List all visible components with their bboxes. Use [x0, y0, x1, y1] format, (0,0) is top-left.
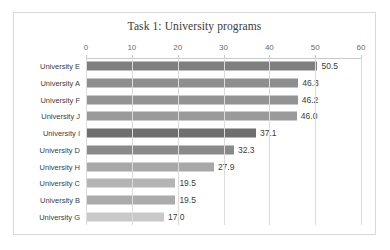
x-axis-tick-label: 60 — [357, 43, 366, 52]
bar[interactable] — [86, 162, 214, 171]
category-label: University J — [41, 112, 80, 121]
x-axis-tick-label: 20 — [173, 43, 182, 52]
axis-tick — [269, 55, 270, 58]
x-axis-tick-label: 0 — [84, 43, 88, 52]
category-label: University H — [40, 162, 80, 171]
bar[interactable] — [86, 195, 175, 204]
bar-value-label: 27.9 — [218, 162, 235, 172]
bar[interactable] — [86, 62, 317, 71]
gridline — [269, 58, 270, 225]
gridline — [315, 58, 316, 225]
gridline — [361, 58, 362, 225]
bar[interactable] — [86, 179, 175, 188]
gridline — [224, 58, 225, 225]
bar-value-label: 46.3 — [302, 78, 319, 88]
category-label: University F — [40, 95, 80, 104]
category-label: University C — [40, 179, 80, 188]
y-axis-category-labels: University EUniversity AUniversity FUniv… — [14, 58, 84, 225]
bar-value-label: 19.5 — [179, 195, 196, 205]
x-axis-tick-label: 50 — [311, 43, 320, 52]
bar-value-label: 50.5 — [321, 61, 338, 71]
category-label: University A — [40, 79, 80, 88]
x-axis-tick-label: 40 — [265, 43, 274, 52]
bar[interactable] — [86, 145, 234, 154]
gridline — [132, 58, 133, 225]
axis-tick — [178, 55, 179, 58]
axis-tick — [361, 55, 362, 58]
plot-area: 50.546.346.246.037.132.327.919.519.517.0 — [86, 58, 361, 225]
bar[interactable] — [86, 79, 298, 88]
axis-tick — [86, 55, 87, 58]
bar-value-label: 19.5 — [179, 178, 196, 188]
category-label: University D — [40, 145, 80, 154]
axis-tick — [315, 55, 316, 58]
bar[interactable] — [86, 212, 164, 221]
bar[interactable] — [86, 129, 256, 138]
bar-value-label: 37.1 — [260, 128, 277, 138]
gridline — [86, 58, 87, 225]
category-label: University G — [39, 212, 80, 221]
chart-frame: Task 1: University programs 010203040506… — [13, 12, 376, 235]
bar-value-label: 17.0 — [168, 212, 185, 222]
category-label: University B — [40, 195, 80, 204]
category-label: University E — [40, 62, 80, 71]
axis-tick — [132, 55, 133, 58]
x-axis-tick-label: 30 — [219, 43, 228, 52]
bar[interactable] — [86, 95, 298, 104]
category-label: University I — [43, 129, 80, 138]
bar-value-label: 32.3 — [238, 145, 255, 155]
axis-tick — [224, 55, 225, 58]
x-axis-tick-label: 10 — [127, 43, 136, 52]
bar[interactable] — [86, 112, 297, 121]
gridline — [178, 58, 179, 225]
chart-title: Task 1: University programs — [14, 20, 375, 32]
